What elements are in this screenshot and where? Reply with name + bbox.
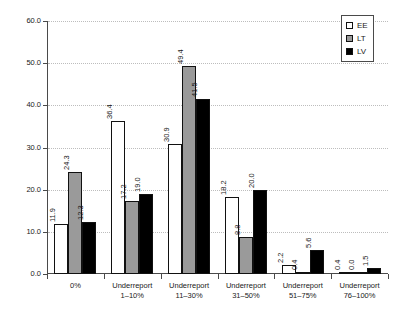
bar-value-text: 2.2 — [277, 252, 285, 262]
x-tick-mark — [331, 274, 332, 279]
bar-lv[interactable]: 5.6 — [310, 250, 324, 274]
x-tick-mark — [161, 274, 162, 279]
legend-swatch-icon — [346, 22, 353, 29]
x-label-line2: 76–100% — [331, 291, 388, 301]
bar-slot: 0.4 — [296, 21, 310, 274]
x-tick-mark — [104, 274, 105, 279]
x-label-line1: Underreport — [283, 281, 323, 290]
legend-label: LV — [357, 47, 366, 56]
x-axis-category-label: Underreport1–10% — [104, 281, 161, 301]
bar-lv[interactable]: 20.0 — [253, 190, 267, 274]
bar-ee[interactable]: 30.9 — [168, 144, 182, 274]
bar-value-text: 41.5 — [191, 82, 199, 97]
y-tick-label: 50.0 — [5, 59, 41, 67]
bar-slot: 41.5 — [196, 21, 210, 274]
bar-slot: 20.0 — [253, 21, 267, 274]
x-axis-category-label: Underreport31–50% — [217, 281, 274, 301]
bar-group: 2.20.45.6 — [274, 21, 331, 274]
bar-value-text: 12.3 — [77, 206, 85, 221]
bar-value-text: 18.2 — [220, 181, 228, 196]
x-axis-labels: 0%Underreport1–10%Underreport11–30%Under… — [47, 281, 388, 301]
y-tick-label: 20.0 — [5, 186, 41, 194]
x-axis-category-label: 0% — [47, 281, 104, 301]
legend-item-lv[interactable]: LV — [346, 45, 368, 58]
bar-value-text: 17.2 — [120, 185, 128, 200]
bar-lt[interactable]: 8.8 — [239, 237, 253, 274]
bar-slot: 17.2 — [125, 21, 139, 274]
x-label-line1: Underreport — [112, 281, 152, 290]
bar-slot: 36.4 — [111, 21, 125, 274]
bar-slot: 11.9 — [54, 21, 68, 274]
bar-value-text: 8.8 — [234, 224, 242, 234]
x-label-line2: 31–50% — [217, 291, 274, 301]
x-label-line1: Underreport — [226, 281, 266, 290]
bar-value-text: 0.0 — [348, 260, 356, 270]
x-label-line1: 0% — [70, 281, 81, 290]
legend-label: EE — [357, 21, 368, 30]
bar-group: 11.924.312.3 — [47, 21, 104, 274]
y-tick-label: 0.0 — [5, 270, 41, 278]
x-label-line2: 11–30% — [161, 291, 218, 301]
bar-slot: 18.2 — [225, 21, 239, 274]
legend-item-lt[interactable]: LT — [346, 32, 368, 45]
bar-lt[interactable]: 17.2 — [125, 201, 139, 274]
bar-group: 36.417.219.0 — [104, 21, 161, 274]
bar-lv[interactable]: 41.5 — [196, 99, 210, 274]
y-tick-label: 30.0 — [5, 144, 41, 152]
bar-ee[interactable]: 18.2 — [225, 197, 239, 274]
x-label-line2: 51–75% — [274, 291, 331, 301]
bar-chart: 0.010.020.030.040.050.060.0 11.924.312.3… — [0, 0, 395, 321]
bar-value-text: 36.4 — [106, 104, 114, 119]
bar-lt[interactable]: 24.3 — [68, 172, 82, 274]
x-axis-ticks — [47, 274, 388, 279]
bar-slot: 24.3 — [68, 21, 82, 274]
bar-value-text: 49.4 — [177, 49, 185, 64]
bar-group: 18.28.820.0 — [217, 21, 274, 274]
bar-value-text: 1.5 — [362, 255, 370, 265]
bar-slot: 8.8 — [239, 21, 253, 274]
bar-value-text: 19.0 — [134, 177, 142, 192]
bar-lv[interactable]: 12.3 — [82, 222, 96, 274]
legend-swatch-icon — [346, 35, 353, 42]
bar-group: 30.949.441.5 — [161, 21, 218, 274]
bar-value-text: 5.6 — [305, 238, 313, 248]
y-tick-label: 40.0 — [5, 101, 41, 109]
bar-slot: 5.6 — [310, 21, 324, 274]
bar-slot: 12.3 — [82, 21, 96, 274]
legend-item-ee[interactable]: EE — [346, 19, 368, 32]
bar-value-text: 0.4 — [334, 260, 342, 270]
bar-value-text: 30.9 — [163, 127, 171, 142]
x-tick-mark — [388, 274, 389, 279]
bar-value-text: 0.4 — [291, 260, 299, 270]
legend: EELTLV — [341, 15, 374, 62]
bar-ee[interactable]: 11.9 — [54, 224, 68, 274]
bar-value-text: 11.9 — [49, 208, 57, 222]
bar-value-text: 20.0 — [248, 173, 256, 188]
x-axis-category-label: Underreport76–100% — [331, 281, 388, 301]
x-tick-mark — [218, 274, 219, 279]
bar-lv[interactable]: 19.0 — [139, 194, 153, 274]
x-axis-category-label: Underreport11–30% — [161, 281, 218, 301]
bar-slot: 49.4 — [182, 21, 196, 274]
legend-label: LT — [357, 34, 366, 43]
x-tick-mark — [274, 274, 275, 279]
legend-swatch-icon — [346, 48, 353, 55]
bar-slot: 2.2 — [282, 21, 296, 274]
y-tick-label: 10.0 — [5, 228, 41, 236]
x-label-line1: Underreport — [169, 281, 209, 290]
y-tick-label: 60.0 — [5, 17, 41, 25]
x-label-line1: Underreport — [340, 281, 380, 290]
x-label-line2: 1–10% — [104, 291, 161, 301]
bar-groups: 11.924.312.336.417.219.030.949.441.518.2… — [47, 21, 388, 274]
bar-value-text: 24.3 — [63, 155, 71, 170]
x-axis-category-label: Underreport51–75% — [274, 281, 331, 301]
bar-slot: 19.0 — [139, 21, 153, 274]
x-tick-mark — [47, 274, 48, 279]
